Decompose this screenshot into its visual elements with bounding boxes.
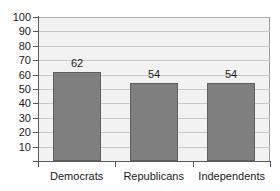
gridline — [38, 46, 270, 47]
y-axis-tick-label: 50 — [19, 84, 31, 95]
bar — [53, 72, 101, 161]
y-axis-tick-mark — [33, 17, 39, 18]
y-axis-tick-label: 10 — [19, 142, 31, 153]
bar-value-label: 54 — [211, 69, 251, 80]
y-axis-tick-label: 20 — [19, 127, 31, 138]
y-axis-tick-label: 80 — [19, 41, 31, 52]
y-axis-tick-mark — [33, 118, 39, 119]
bar-value-label: 54 — [134, 69, 174, 80]
y-axis-tick-label: 100 — [13, 12, 31, 23]
y-axis-tick-mark — [33, 75, 39, 76]
x-axis-category-label: Democrats — [38, 170, 115, 182]
bar-value-label: 62 — [57, 58, 97, 69]
y-axis-tick-mark — [33, 132, 39, 133]
x-axis-category-label: Independents — [193, 170, 270, 182]
gridline — [38, 31, 270, 32]
y-axis-tick-mark — [33, 60, 39, 61]
x-axis-category-label: Republicans — [115, 170, 192, 182]
y-axis-tick-mark — [33, 31, 39, 32]
x-axis-tick-mark — [193, 161, 194, 167]
bar-chart-figure: 100908070605040302010 625454 DemocratsRe… — [0, 0, 280, 191]
x-axis-line — [38, 161, 271, 162]
y-axis-tick-mark — [33, 147, 39, 148]
x-axis-tick-mark — [270, 161, 271, 167]
y-axis-tick-label: 70 — [19, 55, 31, 66]
y-axis-tick-label: 90 — [19, 26, 31, 37]
x-axis-tick-mark — [38, 161, 39, 167]
y-axis-tick-label: 60 — [19, 70, 31, 81]
y-axis-tick-mark — [33, 46, 39, 47]
y-axis-tick-mark — [33, 103, 39, 104]
y-axis-tick-label: 40 — [19, 98, 31, 109]
y-axis-tick-mark — [33, 89, 39, 90]
x-axis-tick-mark — [115, 161, 116, 167]
bar — [130, 83, 178, 161]
bar — [207, 83, 255, 161]
y-axis-tick-label: 30 — [19, 113, 31, 124]
